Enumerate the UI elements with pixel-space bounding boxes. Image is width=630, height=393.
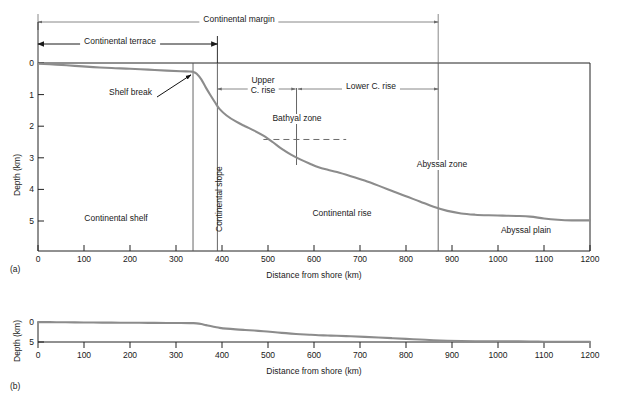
panel-b-y-ticks [38, 322, 44, 342]
x-tick-label-b-600: 600 [307, 350, 321, 360]
x-tick-label-b-1200: 1200 [581, 350, 600, 360]
zone-dividers [193, 63, 438, 251]
x-tick-label-b-300: 300 [169, 350, 183, 360]
annotation-shelf-break: Shelf break [109, 88, 152, 98]
y-tick-label-0: 0 [29, 58, 34, 68]
annotation-bathyal-zone: Bathyal zone [269, 114, 324, 124]
x-tick-label-b-800: 800 [399, 350, 413, 360]
annotation-continental-rise: Continental rise [312, 209, 371, 219]
panel-a-id: (a) [10, 264, 20, 274]
y-tick-label-1: 1 [29, 90, 34, 100]
bracket-label-continental-margin: Continental margin [199, 15, 278, 25]
x-tick-label-b-200: 200 [123, 350, 137, 360]
annotation-continental-slope: Continental slope [214, 166, 224, 232]
upper-c-rise-line2: C. rise [251, 85, 276, 95]
panel-a-x-ticks [38, 245, 590, 251]
seafloor-profile-b [38, 322, 590, 342]
x-tick-label-1100: 1100 [535, 254, 553, 264]
panel-b-x-ticks [38, 342, 590, 348]
panel-b-x-axis-title: Distance from shore (km) [266, 366, 361, 376]
panel-a-y-axis-title: Depth (km) [12, 154, 22, 196]
bracket-label-continental-terrace: Continental terrace [80, 37, 160, 47]
shelf-break-pointer [157, 75, 191, 97]
x-tick-label-800: 800 [399, 254, 413, 264]
y-tick-label-4: 4 [29, 184, 34, 194]
panel-b-plot [0, 300, 630, 393]
y-tick-label-b-0: 0 [29, 317, 34, 327]
bracket-label-upper-c-rise: Upper C. rise [248, 76, 279, 96]
x-tick-label-b-0: 0 [36, 350, 41, 360]
x-tick-label-1200: 1200 [581, 254, 600, 264]
x-tick-label-200: 200 [123, 254, 137, 264]
x-tick-label-b-700: 700 [353, 350, 367, 360]
y-tick-label-b-5: 5 [29, 337, 34, 347]
figure-root: Continental margin Continental terrace U… [0, 0, 630, 393]
panel-a-y-ticks [38, 63, 44, 221]
y-tick-label-2: 2 [29, 121, 34, 131]
annotation-continental-shelf: Continental shelf [84, 214, 147, 224]
x-tick-label-400: 400 [215, 254, 229, 264]
x-tick-label-900: 900 [445, 254, 459, 264]
y-tick-label-5: 5 [29, 216, 34, 226]
x-tick-label-600: 600 [307, 254, 321, 264]
annotation-abyssal-zone: Abyssal zone [414, 160, 471, 170]
x-tick-label-b-900: 900 [445, 350, 459, 360]
upper-c-rise-line1: Upper [251, 75, 274, 85]
x-tick-label-500: 500 [261, 254, 275, 264]
x-tick-label-0: 0 [36, 254, 41, 264]
x-tick-label-b-500: 500 [261, 350, 275, 360]
x-tick-label-1000: 1000 [489, 254, 508, 264]
x-tick-label-100: 100 [77, 254, 91, 264]
x-tick-label-b-1100: 1100 [535, 350, 553, 360]
x-tick-label-b-100: 100 [77, 350, 91, 360]
panel-a-x-axis-title: Distance from shore (km) [266, 270, 361, 280]
x-tick-label-700: 700 [353, 254, 367, 264]
bracket-label-lower-c-rise: Lower C. rise [342, 82, 400, 92]
x-tick-label-b-400: 400 [215, 350, 229, 360]
panel-b-y-axis-title: Depth (km) [12, 320, 22, 362]
x-tick-label-300: 300 [169, 254, 183, 264]
x-tick-label-b-1000: 1000 [489, 350, 508, 360]
panel-b-id: (b) [10, 381, 20, 391]
y-tick-label-3: 3 [29, 153, 34, 163]
annotation-abyssal-plain: Abyssal plain [501, 226, 551, 236]
